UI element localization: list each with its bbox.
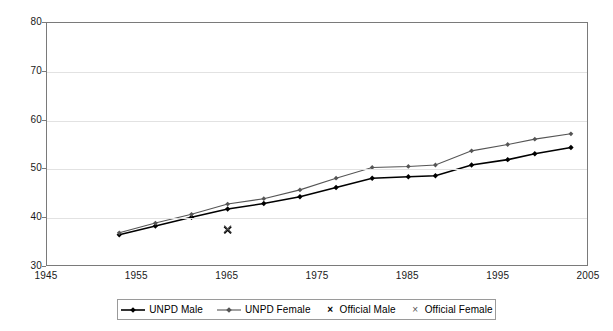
legend-line-diamond-gray-icon [216,305,242,315]
data-point-marker [224,226,231,233]
data-point-marker [469,148,474,153]
data-point-marker [406,174,411,179]
chart-container: 304050607080 194519551965197519851995200… [0,0,613,331]
x-tick-label: 1945 [16,270,76,281]
gridline [47,121,587,122]
data-point-marker [469,162,474,167]
y-tick-label: 70 [2,66,42,76]
legend-x-light-icon: × [409,305,422,315]
x-axis: 1945195519651975198519952005 [0,270,613,286]
y-tick-label: 80 [2,17,42,27]
data-point-marker [370,175,375,180]
x-tick-label: 1985 [377,270,437,281]
series-unpd-female [117,131,573,235]
series-unpd-male [117,145,574,238]
data-point-marker [505,142,510,147]
series-official-male [224,227,231,234]
data-point-marker [297,194,302,199]
data-point-marker [261,201,266,206]
data-point-marker [225,206,230,211]
x-tick-label: 1965 [197,270,257,281]
data-point-marker [334,176,339,181]
data-point-marker [568,145,573,150]
series-official-female [224,226,231,233]
x-tick-label: 1975 [287,270,347,281]
y-tick-label: 60 [2,115,42,125]
y-tick-mark [42,22,46,23]
chart-legend: UNPD MaleUNPD Female×Official Male×Offic… [117,299,496,320]
data-point-marker [333,185,338,190]
data-point-marker [261,196,266,201]
y-tick-mark [42,120,46,121]
y-tick-mark [42,266,46,267]
data-point-marker [433,173,438,178]
gridline [47,218,587,219]
data-point-marker [189,212,194,217]
y-tick-mark [42,217,46,218]
legend-label: Official Male [340,304,396,315]
x-tick-label: 1995 [468,270,528,281]
data-point-marker [298,187,303,192]
y-tick-label: 50 [2,163,42,173]
legend-label: UNPD Male [149,304,203,315]
data-point-marker [224,227,231,234]
legend-entry-unpd-female[interactable]: UNPD Female [216,304,311,315]
gridline [47,72,587,73]
data-point-marker [532,151,537,156]
plot-area [46,22,588,266]
series-line [119,147,571,234]
legend-label: Official Female [425,304,493,315]
legend-x-bold-icon: × [324,305,337,315]
y-tick-label: 40 [2,212,42,222]
data-point-marker [505,157,510,162]
legend-entry-official-male[interactable]: ×Official Male [324,304,396,315]
data-point-marker [569,131,574,136]
data-point-marker [225,202,230,207]
data-point-marker [433,163,438,168]
data-point-marker [153,221,158,226]
data-point-marker [406,164,411,169]
y-tick-mark [42,71,46,72]
legend-label: UNPD Female [245,304,311,315]
data-point-marker [532,137,537,142]
x-tick-label: 2005 [558,270,613,281]
y-tick-mark [42,168,46,169]
legend-entry-unpd-male[interactable]: UNPD Male [120,304,203,315]
series-layer [47,23,589,267]
x-tick-label: 1955 [106,270,166,281]
legend-line-diamond-dark-icon [120,305,146,315]
gridline [47,169,587,170]
legend-entry-official-female[interactable]: ×Official Female [409,304,493,315]
